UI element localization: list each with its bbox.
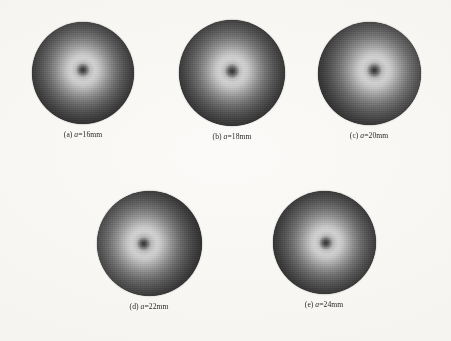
intensity-disk-a: [32, 22, 134, 124]
panel-value-c: 20mm: [369, 131, 389, 140]
disk-wrapper-d: [97, 191, 202, 296]
disk-wrapper-e: [273, 191, 376, 294]
disk-wrapper-b: [179, 20, 285, 126]
figure-panel-c: (c) a=20mm: [294, 22, 444, 140]
figure-panel-b: (b) a=18mm: [157, 20, 307, 141]
panel-label-e: (e): [305, 300, 314, 309]
panel-label-b: (b): [213, 132, 222, 141]
disk-grain-a: [32, 22, 134, 124]
panel-caption-e: (e) a=24mm: [249, 300, 399, 309]
disk-grain-d: [97, 191, 202, 296]
intensity-disk-c: [318, 22, 421, 125]
intensity-disk-d: [97, 191, 202, 296]
disk-wrapper-c: [318, 22, 421, 125]
figure-page: · · · (a) a=16mm: [0, 0, 451, 341]
panel-value-e: 24mm: [324, 300, 344, 309]
disk-grain-e: [273, 191, 376, 294]
panel-value-b: 18mm: [232, 132, 252, 141]
panel-caption-c: (c) a=20mm: [294, 131, 444, 140]
figure-panel-d: (d) a=22mm: [74, 191, 224, 311]
disk-wrapper-a: [32, 22, 134, 124]
disk-grain-c: [318, 22, 421, 125]
panel-caption-b: (b) a=18mm: [157, 132, 307, 141]
panel-caption-d: (d) a=22mm: [74, 302, 224, 311]
panel-value-d: 22mm: [149, 302, 169, 311]
panel-caption-a: (a) a=16mm: [8, 130, 158, 139]
panel-label-c: (c): [350, 131, 359, 140]
disk-grain-b: [179, 20, 285, 126]
panel-label-d: (d): [130, 302, 139, 311]
panel-label-a: (a): [64, 130, 73, 139]
figure-panel-a: (a) a=16mm: [8, 22, 158, 139]
figure-panel-e: (e) a=24mm: [249, 191, 399, 309]
intensity-disk-e: [273, 191, 376, 294]
figure-panel-grid: (a) a=16mm (b) a=18mm: [0, 0, 451, 341]
intensity-disk-b: [179, 20, 285, 126]
panel-value-a: 16mm: [83, 130, 103, 139]
